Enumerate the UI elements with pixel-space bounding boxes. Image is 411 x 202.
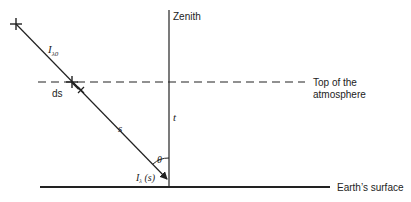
slant-path-ray	[16, 24, 167, 179]
vertical-height-t-label: t	[173, 111, 177, 123]
surface-intensity-label: Iλ (s)	[135, 172, 156, 184]
ds-label: ds	[52, 88, 63, 99]
earth-surface-label: Earth’s surface	[337, 182, 404, 193]
top-of-atmosphere-label-line2: atmosphere	[313, 89, 366, 100]
zenith-label: Zenith	[173, 11, 201, 22]
ds-end-x-icon	[78, 87, 84, 93]
incident-intensity-label: Iλ0	[47, 43, 59, 58]
ds-segment-arrow	[72, 82, 79, 89]
top-of-atmosphere-label-line1: Top of the	[313, 77, 357, 88]
zenith-angle-theta-label: θ	[157, 154, 162, 165]
path-length-s-label: s	[118, 122, 122, 134]
atmospheric-path-diagram: Zenith Top of the atmosphere Earth’s sur…	[0, 0, 411, 202]
